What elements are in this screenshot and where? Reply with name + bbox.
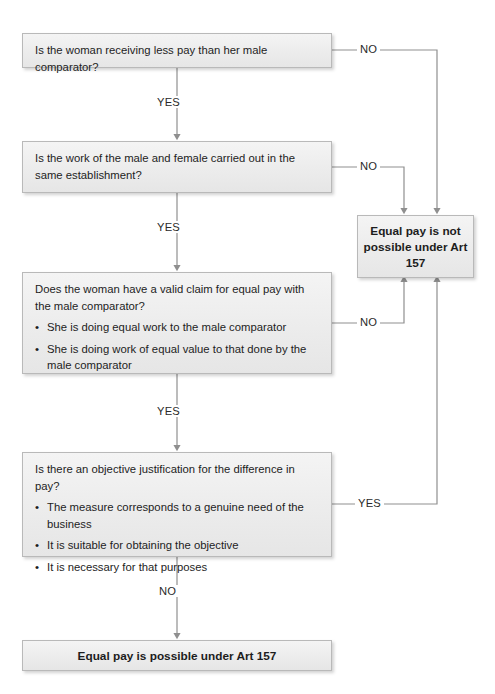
list-item: It is suitable for obtaining the objecti… <box>35 537 320 554</box>
node-q4-bullets: The measure corresponds to a genuine nee… <box>35 499 320 575</box>
node-equal-pay-not-possible-label: Equal pay is not possible under Art 157 <box>358 223 473 271</box>
edge-label-q2-no: NO <box>357 160 380 172</box>
edge-q2-no <box>332 167 404 212</box>
node-equal-pay-possible-label: Equal pay is possible under Art 157 <box>78 648 277 664</box>
node-q2[interactable]: Is the work of the male and female carri… <box>22 141 332 193</box>
node-equal-pay-possible[interactable]: Equal pay is possible under Art 157 <box>22 640 332 671</box>
node-q1-question: Is the woman receiving less pay than her… <box>35 42 320 75</box>
edge-label-q2-yes: YES <box>154 221 183 233</box>
edge-label-q1-yes: YES <box>154 96 183 108</box>
node-q1[interactable]: Is the woman receiving less pay than her… <box>22 33 332 68</box>
list-item: The measure corresponds to a genuine nee… <box>35 499 320 532</box>
edge-label-q3-yes: YES <box>154 405 183 417</box>
node-q2-question: Is the work of the male and female carri… <box>35 150 320 183</box>
list-item: She is doing equal work to the male comp… <box>35 319 320 336</box>
list-item: She is doing work of equal value to that… <box>35 341 320 374</box>
node-equal-pay-not-possible[interactable]: Equal pay is not possible under Art 157 <box>357 215 474 278</box>
node-q3-question: Does the woman have a valid claim for eq… <box>35 281 320 314</box>
edge-label-q3-no: NO <box>357 316 380 328</box>
node-q4[interactable]: Is there an objective justification for … <box>22 452 332 557</box>
edge-label-q4-no: NO <box>156 585 179 597</box>
edge-label-q4-yes: YES <box>355 497 384 509</box>
node-q3[interactable]: Does the woman have a valid claim for eq… <box>22 272 332 374</box>
list-item: It is necessary for that purposes <box>35 559 320 576</box>
node-q3-bullets: She is doing equal work to the male comp… <box>35 319 320 374</box>
node-q1-body: Is the woman receiving less pay than her… <box>23 34 331 83</box>
node-q2-body: Is the work of the male and female carri… <box>23 142 331 191</box>
node-q3-body: Does the woman have a valid claim for eq… <box>23 273 331 382</box>
edge-q4-yes <box>332 278 437 504</box>
edge-q1-no <box>332 50 437 212</box>
node-q4-body: Is there an objective justification for … <box>23 453 331 583</box>
edge-label-q1-no: NO <box>357 43 380 55</box>
node-q4-question: Is there an objective justification for … <box>35 461 320 494</box>
flowchart-canvas: Is the woman receiving less pay than her… <box>0 0 495 694</box>
